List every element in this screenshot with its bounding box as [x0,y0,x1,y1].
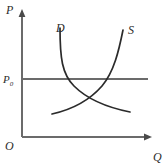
supply-curve-label: S [128,23,134,37]
figure-canvas: P Q O P0 D S [0,0,168,165]
origin-label: O [5,139,14,153]
horizontal-axis-arrow-icon [144,134,152,141]
vertical-axis-arrow-icon [19,9,26,17]
x-axis-label: Q [153,150,162,164]
supply-demand-figure: P Q O P0 D S [0,0,168,165]
price-level-label: P0 [2,73,14,88]
demand-curve-label: D [55,21,65,35]
y-axis-label: P [5,3,14,17]
supply-curve [52,30,123,114]
price-level-label-subscript: 0 [10,80,14,88]
demand-curve [60,28,130,112]
